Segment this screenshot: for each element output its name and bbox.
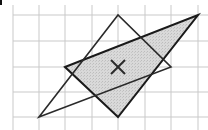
grid-diagram xyxy=(0,0,208,130)
shaded-triangle xyxy=(65,15,198,117)
